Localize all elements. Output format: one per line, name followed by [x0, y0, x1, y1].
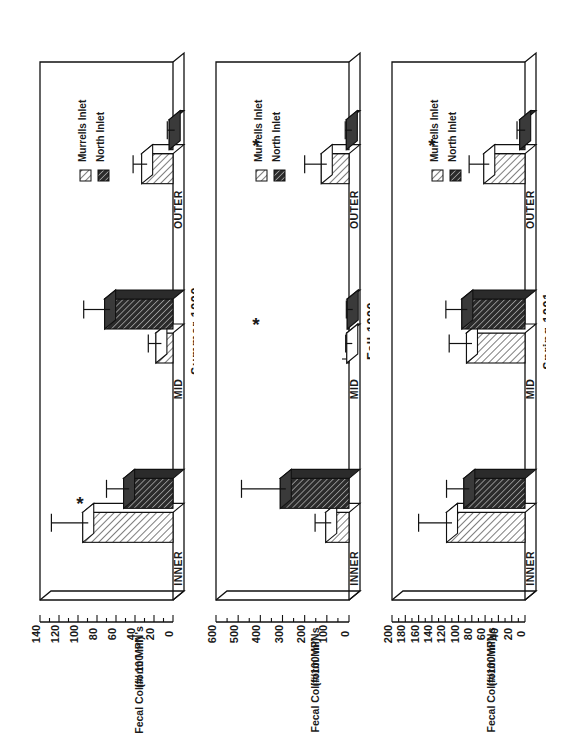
- bar-mid-north-inlet: [446, 290, 536, 329]
- legend-swatch-murrells-inlet: [432, 170, 443, 181]
- category-label-inner: INNER: [524, 551, 536, 586]
- legend-label-north-inlet: North Inlet: [271, 111, 282, 162]
- legend-label-murrells-inlet: Murrells Inlet: [77, 99, 88, 162]
- error-bar-inner-north-inlet: [241, 480, 285, 498]
- chart-frame-floor: [392, 591, 536, 600]
- legend-swatch-murrells-inlet: [256, 170, 267, 181]
- axis-title-line2: (#/100 ml): [309, 638, 321, 686]
- value-axis-tick-label: 500: [228, 625, 240, 643]
- legend-label-murrells-inlet: Murrells Inlet: [429, 99, 440, 162]
- legend-swatch-north-inlet: [450, 170, 461, 181]
- value-axis-tick-label: 120: [435, 625, 447, 643]
- bar-inner-murrells-inlet: [419, 503, 536, 542]
- category-label-inner: INNER: [172, 551, 184, 586]
- legend-swatch-north-inlet: [98, 170, 109, 181]
- bar-mid-murrells-inlet: [346, 324, 360, 363]
- axis-title-line2: (#/ 100 ml): [133, 636, 145, 687]
- bar-mid-north-inlet: [84, 290, 184, 329]
- significance-star: *: [76, 493, 84, 514]
- value-axis-tick-label: 80: [462, 628, 474, 640]
- category-label-mid: MID: [172, 379, 184, 399]
- value-axis-tick-label: 200: [382, 625, 394, 643]
- value-axis-tick-label: 180: [395, 625, 407, 643]
- category-label-outer: OUTER: [348, 190, 360, 229]
- chart-body-1: 020406080100120140Fecal Coliform MPN's(#…: [30, 53, 194, 734]
- bar-top-face: [105, 290, 184, 299]
- category-label-inner: INNER: [348, 551, 360, 586]
- bar-inner-north-inlet: [447, 469, 536, 508]
- chart-svg-1: 020406080100120140Fecal Coliform MPN's(#…: [18, 0, 194, 744]
- legend-label-north-inlet: North Inlet: [95, 111, 106, 162]
- legend-label-murrells-inlet: Murrells Inlet: [253, 99, 264, 162]
- chart-svg-3: 020406080100120140160180200Fecal Colifor…: [370, 0, 546, 744]
- chart-svg-2: 0100200300400500600Fecal Coliform MPNs(#…: [194, 0, 370, 744]
- bar-outer-murrells-inlet: [133, 145, 184, 184]
- chart-body-3: 020406080100120140160180200Fecal Colifor…: [382, 53, 546, 733]
- category-label-outer: OUTER: [524, 190, 536, 229]
- chart-panel-summer-1990: 020406080100120140Fecal Coliform MPN's(#…: [18, 0, 194, 744]
- chart-panel-fall-1990: 0100200300400500600Fecal Coliform MPNs(#…: [194, 0, 370, 744]
- category-label-mid: MID: [348, 379, 360, 399]
- chart-panel-spring-1991: 020406080100120140160180200Fecal Colifor…: [370, 0, 546, 744]
- bar-top-face: [280, 469, 360, 478]
- bar-front-face: [83, 512, 173, 542]
- legend: Murrells InletNorth Inlet: [253, 99, 286, 181]
- bar-outer-murrells-inlet: [305, 145, 360, 184]
- season-title: Spring 1991: [541, 292, 546, 369]
- bar-inner-north-inlet: [241, 469, 360, 508]
- legend: Murrells InletNorth Inlet: [429, 99, 462, 181]
- value-axis-tick-label: 140: [30, 625, 42, 643]
- bar-inner-murrells-inlet: [51, 503, 184, 542]
- legend-swatch-north-inlet: [274, 170, 285, 181]
- value-axis-tick-label: 0: [339, 631, 351, 637]
- value-axis-tick-label: 200: [295, 625, 307, 643]
- bar-outer-north-inlet: [345, 111, 360, 150]
- significance-star: *: [252, 314, 260, 335]
- bar-outer-murrells-inlet: [469, 145, 536, 184]
- chart-body-2: 0100200300400500600Fecal Coliform MPNs(#…: [206, 53, 370, 733]
- chart-frame-floor: [40, 591, 184, 600]
- value-axis-tick-label: 400: [250, 625, 262, 643]
- value-axis-tick-label: 140: [422, 625, 434, 643]
- value-axis-tick-label: 20: [502, 628, 514, 640]
- figure-root: 020406080100120140Fecal Coliform MPN's(#…: [0, 0, 563, 744]
- axis-title-line2: (#/100 ml): [485, 638, 497, 686]
- value-axis-tick-label: 60: [106, 628, 118, 640]
- chart-frame-floor: [216, 591, 360, 600]
- value-axis-tick-label: 100: [68, 625, 80, 643]
- bar-outer-north-inlet: [167, 111, 184, 150]
- bar-inner-north-inlet: [107, 469, 185, 508]
- value-axis-tick-label: 0: [515, 631, 527, 637]
- category-label-mid: MID: [524, 379, 536, 399]
- value-axis-tick-label: 120: [49, 625, 61, 643]
- legend: Murrells InletNorth Inlet: [77, 99, 110, 181]
- value-axis-tick-label: 80: [87, 628, 99, 640]
- legend-label-north-inlet: North Inlet: [447, 111, 458, 162]
- value-axis-tick-label: 600: [206, 625, 218, 643]
- value-axis-tick-label: 100: [449, 625, 461, 643]
- bar-mid-murrells-inlet: [148, 324, 184, 363]
- legend-swatch-murrells-inlet: [80, 170, 91, 181]
- value-axis-tick-label: 160: [409, 625, 421, 643]
- value-axis-tick-label: 20: [144, 628, 156, 640]
- value-axis-tick-label: 300: [273, 625, 285, 643]
- bar-inner-murrells-inlet: [315, 503, 360, 542]
- bar-outer-north-inlet: [517, 111, 536, 150]
- category-label-outer: OUTER: [172, 190, 184, 229]
- bar-front-face: [447, 512, 525, 542]
- value-axis-tick-label: 0: [163, 631, 175, 637]
- bar-mid-murrells-inlet: [449, 324, 536, 363]
